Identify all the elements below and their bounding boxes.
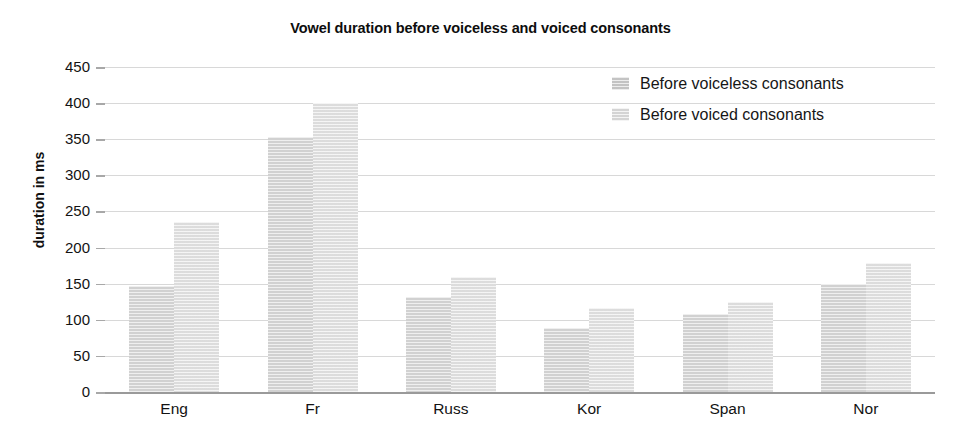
gridline [105, 320, 935, 321]
y-tick-label: 250 [28, 203, 90, 218]
bar [268, 137, 313, 392]
y-tick-label: 50 [28, 348, 90, 363]
y-tick-label: 200 [28, 240, 90, 255]
bar [129, 286, 174, 392]
x-tick-label: Span [668, 400, 788, 418]
gridline [105, 175, 935, 176]
chart-legend: Before voiceless consonantsBefore voiced… [612, 68, 942, 130]
y-tick-label: 100 [28, 312, 90, 327]
y-tick-mark [96, 67, 105, 69]
y-tick-mark [96, 392, 105, 394]
chart-title: Vowel duration before voiceless and voic… [0, 20, 961, 36]
y-tick-label: 450 [28, 59, 90, 74]
x-tick-label: Fr [253, 400, 373, 418]
bar [451, 277, 496, 392]
y-tick-label: 350 [28, 131, 90, 146]
bar-chart: Vowel duration before voiceless and voic… [0, 0, 961, 442]
y-tick-mark [96, 320, 105, 322]
legend-swatch-icon [612, 77, 629, 90]
y-tick-mark [96, 103, 105, 105]
gridline [105, 211, 935, 212]
gridline [105, 139, 935, 140]
legend-swatch-icon [612, 108, 629, 121]
bar [683, 314, 728, 392]
legend-label: Before voiced consonants [640, 106, 824, 124]
y-tick-mark [96, 356, 105, 358]
y-tick-mark [96, 248, 105, 250]
gridline [105, 356, 935, 357]
legend-item: Before voiced consonants [612, 99, 942, 130]
bar [174, 222, 219, 392]
bar [406, 297, 451, 392]
gridline [105, 248, 935, 249]
bar [544, 328, 589, 392]
legend-item: Before voiceless consonants [612, 68, 942, 99]
y-tick-mark [96, 211, 105, 213]
bar [866, 263, 911, 392]
x-tick-label: Russ [391, 400, 511, 418]
y-tick-mark [96, 175, 105, 177]
x-tick-label: Eng [114, 400, 234, 418]
x-tick-label: Nor [806, 400, 926, 418]
y-tick-mark [96, 139, 105, 141]
y-tick-label: 400 [28, 95, 90, 110]
bar [728, 302, 773, 392]
bar [589, 308, 634, 393]
y-tick-label: 300 [28, 167, 90, 182]
y-tick-label: 150 [28, 276, 90, 291]
y-tick-mark [96, 284, 105, 286]
y-tick-label: 0 [28, 384, 90, 399]
bar [313, 103, 358, 392]
gridline [105, 284, 935, 285]
x-tick-label: Kor [529, 400, 649, 418]
legend-label: Before voiceless consonants [640, 75, 844, 93]
bar [821, 284, 866, 392]
x-axis-baseline [105, 392, 935, 394]
